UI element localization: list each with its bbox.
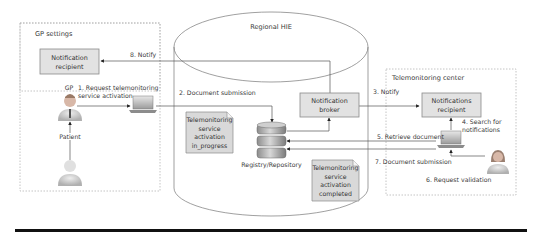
- svg-text:in_progress: in_progress: [192, 142, 227, 150]
- svg-text:broker: broker: [319, 106, 340, 114]
- regional-hie-label: Regional HIE: [250, 23, 292, 31]
- notification-broker-box: Notification broker: [300, 93, 359, 117]
- step-4-label: 4. Search for: [462, 118, 502, 125]
- svg-text:completed: completed: [319, 190, 352, 198]
- bottom-rule-divider: [15, 229, 527, 232]
- gp-settings-label: GP settings: [35, 30, 73, 38]
- patient-label: Patient: [59, 133, 81, 140]
- step-1-label-line2: service activation: [78, 92, 133, 99]
- database-icon: [257, 122, 286, 158]
- step-1-label: 1. Request telemonitoring: [78, 84, 159, 92]
- svg-text:Notification: Notification: [311, 97, 348, 105]
- gp-notification-recipient-box: Notification recipient: [40, 49, 99, 74]
- step-5-label: 5. Retrieve document: [377, 133, 444, 140]
- svg-text:Notifications: Notifications: [432, 97, 473, 105]
- svg-text:recipient: recipient: [55, 63, 84, 71]
- svg-text:Telemonitoring: Telemonitoring: [312, 164, 359, 172]
- step-8-label: 8. Notify: [130, 51, 156, 59]
- step-3-label: 3. Notify: [373, 88, 399, 96]
- svg-text:Telemonitoring: Telemonitoring: [186, 116, 233, 124]
- step-7-label: 7. Document submission: [375, 158, 452, 165]
- step-6-label: 6. Request validation: [426, 176, 492, 184]
- validator-person-icon: [487, 150, 509, 174]
- note-in-progress: Telemonitoring service activation in_pro…: [186, 112, 233, 153]
- telemonitoring-architecture-diagram: GP settings Telemonitoring center Region…: [0, 0, 542, 238]
- gp-laptop-icon: [129, 96, 157, 113]
- step-2-label: 2. Document submission: [179, 89, 256, 96]
- svg-text:Notification: Notification: [51, 54, 88, 62]
- svg-text:recipient: recipient: [437, 106, 466, 114]
- gp-label: GP: [65, 84, 74, 91]
- registry-repository-label: Registry/Repository: [241, 161, 302, 169]
- note-completed: Telemonitoring service activation comple…: [312, 160, 359, 201]
- step-4-label-line2: notifications: [462, 126, 500, 133]
- svg-text:activation: activation: [194, 133, 225, 140]
- svg-text:service: service: [324, 173, 346, 180]
- patient-person-icon: [58, 160, 82, 186]
- telemonitoring-center-label: Telemonitoring center: [391, 74, 464, 82]
- svg-text:activation: activation: [320, 181, 351, 188]
- svg-text:service: service: [198, 125, 220, 132]
- tm-notifications-recipient-box: Notifications recipient: [422, 93, 481, 117]
